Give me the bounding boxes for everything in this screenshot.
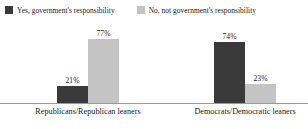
legend-label-yes: Yes, government's responsibility: [17, 6, 115, 15]
legend-label-no: No, not government's responsibility: [149, 6, 256, 15]
bar-democrats-no: [245, 84, 276, 103]
bar-group-republicans-bars: 21% 77%: [57, 20, 119, 103]
legend-swatch-no-icon: [137, 6, 145, 14]
bar-value-democrats-no: 23%: [241, 74, 281, 83]
bar-democrats-yes: [214, 42, 245, 103]
legend-swatch-yes-icon: [5, 6, 13, 14]
x-axis-baseline: [0, 103, 308, 104]
bar-wrap-republicans-no: 77%: [88, 20, 119, 103]
bar-republicans-yes: [57, 86, 88, 103]
bar-value-democrats-yes: 74%: [210, 32, 250, 41]
bar-republicans-no: [88, 39, 119, 103]
chart-legend: Yes, government's responsibility No, not…: [0, 3, 308, 17]
bar-value-republicans-yes: 21%: [53, 76, 93, 85]
bar-wrap-democrats-no: 23%: [245, 20, 276, 103]
bar-wrap-democrats-yes: 74%: [214, 20, 245, 103]
bar-value-republicans-no: 77%: [84, 29, 124, 38]
category-label-republicans: Republicans/Republican leaners: [18, 106, 158, 117]
legend-item-no: No, not government's responsibility: [137, 6, 256, 15]
category-label-democrats: Democrats/Democratic leaners: [176, 106, 308, 117]
chart-plot-area: 21% 77% 74% 23%: [0, 20, 308, 104]
bar-group-democrats-bars: 74% 23%: [214, 20, 276, 103]
legend-item-yes: Yes, government's responsibility: [5, 6, 115, 15]
x-axis-category-labels: Republicans/Republican leaners Democrats…: [0, 106, 308, 122]
